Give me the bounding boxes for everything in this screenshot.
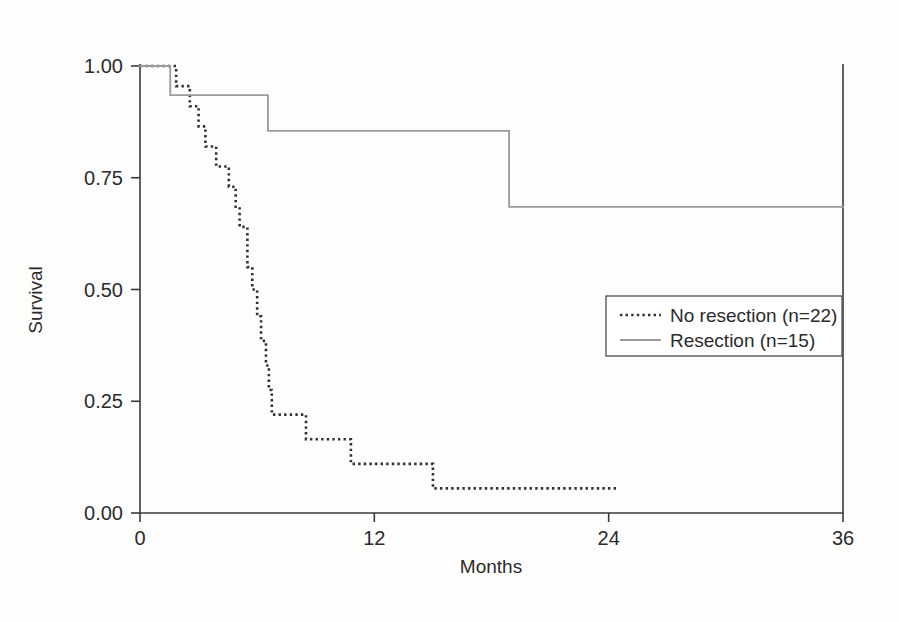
chart-legend: No resection (n=22)Resection (n=15) (606, 296, 842, 356)
x-tick-label: 0 (134, 527, 145, 549)
y-tick-label: 0.75 (84, 167, 123, 189)
y-axis-ticks: 0.000.250.500.751.00 (84, 55, 140, 524)
x-tick-label: 36 (832, 527, 854, 549)
y-tick-label: 1.00 (84, 55, 123, 77)
series-line-no-resection (140, 66, 616, 488)
x-axis-title: Months (460, 556, 522, 577)
series-layer (140, 66, 843, 488)
survival-chart-figure: 0.000.250.500.751.00 0122436 Months Surv… (0, 0, 899, 622)
y-tick-label: 0.00 (84, 502, 123, 524)
x-tick-label: 12 (363, 527, 385, 549)
series-line-resection (140, 66, 843, 207)
legend-label: No resection (n=22) (670, 305, 837, 326)
y-axis-title: Survival (25, 266, 46, 334)
x-tick-label: 24 (598, 527, 620, 549)
x-axis-ticks: 0122436 (134, 513, 854, 549)
y-tick-label: 0.25 (84, 390, 123, 412)
kaplan-meier-plot: 0.000.250.500.751.00 0122436 Months Surv… (0, 0, 899, 622)
y-tick-label: 0.50 (84, 279, 123, 301)
legend-label: Resection (n=15) (670, 330, 815, 351)
